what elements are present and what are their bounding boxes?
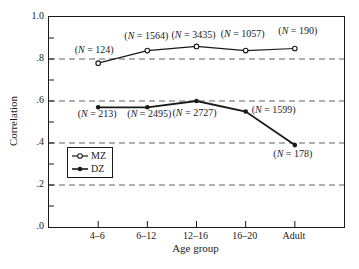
x-tick-label: 6–12 — [136, 230, 156, 241]
x-tick-label: Adult — [282, 230, 305, 241]
point-n-label: (N = 124) — [75, 44, 114, 55]
point-n-label: (N = 2727) — [173, 107, 217, 118]
mz-marker — [194, 44, 199, 49]
point-n-label: (N = 1057) — [221, 27, 265, 38]
x-tick-label: 12–16 — [183, 230, 208, 241]
point-n-label: (N = 213) — [78, 108, 117, 119]
dz-filled-circle-marker-icon — [72, 165, 88, 173]
y-tick-label: .4 — [3, 136, 44, 148]
legend-label-dz: DZ — [91, 163, 104, 175]
mz-marker — [96, 61, 101, 66]
x-tick-label: 16–20 — [232, 230, 257, 241]
point-n-label: (N = 2495) — [127, 108, 171, 119]
point-n-label: (N = 1599) — [252, 103, 296, 114]
mz-open-circle-marker-icon — [72, 152, 88, 160]
twin-correlation-figure: Correlation 1.0.8.6.4.2.04–66–1212–1616–… — [0, 0, 359, 269]
x-axis-title: Age group — [48, 242, 343, 254]
mz-marker — [293, 46, 298, 51]
legend-entry-mz: MZ — [72, 150, 112, 162]
y-tick-label: 1.0 — [3, 10, 44, 22]
mz-marker — [243, 48, 248, 53]
point-n-label: (N = 1564) — [124, 29, 168, 40]
y-tick-label: .8 — [3, 52, 44, 64]
legend: MZ DZ — [67, 147, 113, 178]
y-tick-label: .0 — [3, 220, 44, 232]
dz-marker — [243, 109, 248, 114]
y-tick-label: .2 — [3, 178, 44, 190]
y-tick-label: .6 — [3, 94, 44, 106]
point-n-label: (N = 3435) — [172, 29, 216, 40]
point-n-label: (N = 178) — [273, 148, 312, 159]
mz-marker — [145, 48, 150, 53]
legend-entry-dz: DZ — [72, 163, 112, 175]
point-n-label: (N = 190) — [278, 24, 317, 35]
x-tick-label: 4–6 — [90, 230, 105, 241]
dz-marker — [194, 99, 199, 104]
legend-label-mz: MZ — [91, 150, 106, 162]
